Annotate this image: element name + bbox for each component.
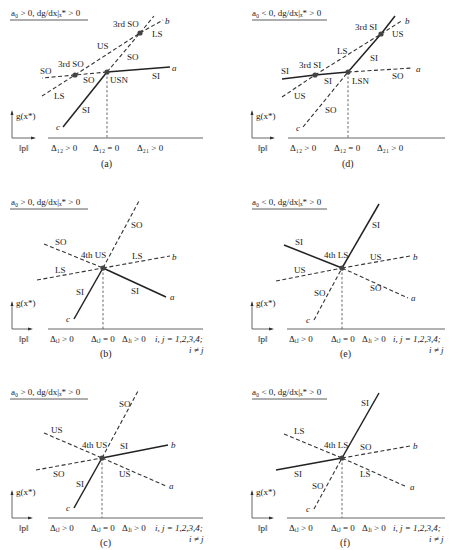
panel-d-condition: a₀ < 0, dg/dx|ₓ* > 0 [252,8,322,18]
y-axis-label: g(x*) [16,298,36,308]
label-left-so: SO [40,66,52,76]
y-axis-arrow-icon [11,301,14,306]
label-left-ls: LS [54,91,65,101]
node-4th-ls [339,455,344,460]
x-tick-left: Δ₁₂ > 0 [290,143,317,153]
branch-left-si [276,458,342,470]
x-tick-left: Δᵢⱼ > 0 [289,334,313,344]
index-note-neq: i ≠ j [189,534,204,544]
label-so-a: SO [370,283,382,293]
label-mid-so: SO [83,75,95,85]
label-left-si: SI [281,66,289,76]
label-si-a: SI [131,286,139,296]
y-axis-arrow-icon [11,490,14,495]
branch-end-b: b [405,16,410,26]
panel-c-condition: a₀ > 0, dg/dx|ₓ* > 0 [11,387,81,397]
branch-left-ls [37,268,103,280]
node-3rd-so-left [72,72,77,77]
x-tick-mid: Δ₁₂ = 0 [334,143,361,153]
label-us: US [97,41,109,51]
label-node-left: 3rd SI [299,60,321,70]
branch-a-ls [342,458,407,487]
label-so-c: SO [325,105,337,115]
x-tick-mid: Δᵢⱼ = 0 [331,334,355,344]
branch-end-a: a [416,64,421,74]
label-upper-so: SO [127,52,139,62]
node-lsn [345,69,350,74]
x-axis-label: ‖p‖ [258,334,268,344]
x-tick-right: Δⱼᵢ > 0 [362,334,386,344]
label-si-left: SI [294,469,302,479]
label-si-left: SI [295,237,303,247]
x-tick-right: Δⱼᵢ > 0 [362,523,386,533]
label-si-c: SI [76,479,84,489]
index-note-neq: i ≠ j [429,534,444,544]
label-node-upper: 3rd SI [355,22,377,32]
x-tick-right: Δⱼᵢ > 0 [122,523,146,533]
x-tick-left: Δ₁₂ > 0 [51,143,78,153]
x-tick-left: Δᵢⱼ > 0 [289,523,313,533]
node-3rd-si-left [312,72,317,77]
branch-end-b: b [171,440,176,450]
label-so-c: SO [312,481,324,491]
x-axis-arrow-icon [28,517,33,520]
branch-a-stable [107,67,170,72]
label-us-a: US [119,469,131,479]
x-tick-mid: Δᵢⱼ = 0 [331,523,355,533]
branch-end-a: a [170,292,175,302]
branch-end-c: c [306,504,310,514]
x-tick-mid: Δ₁₂ = 0 [93,143,120,153]
label-upper-ls: LS [152,29,163,39]
x-axis-arrow-icon [31,137,36,140]
node-3rd-so-upper [137,30,142,35]
index-note: i, j = 1,2,3,4; [155,523,203,533]
y-axis-label: g(x*) [256,487,276,497]
branch-a-us [102,458,166,486]
panel-f: a₀ < 0, dg/dx|ₓ* > 0 4th LS SI LS SI SO … [251,387,446,549]
x-axis-label: ‖p‖ [19,334,29,344]
index-note-neq: i ≠ j [429,345,444,355]
branch-end-b: b [413,441,418,451]
x-tick-right: Δ₂₁ > 0 [137,143,164,153]
panel-caption: (a) [101,158,112,170]
x-tick-left: Δᵢⱼ > 0 [50,334,74,344]
label-node: 4th LS [324,440,348,450]
y-axis-arrow-icon [251,490,254,495]
branch-end-b: b [172,252,177,262]
label-so-left: SO [55,237,67,247]
x-axis-label: ‖p‖ [258,143,268,153]
node-4th-ls [339,265,344,270]
label-us-left: US [51,425,63,435]
panel-caption: (c) [100,537,111,549]
label-us-right: US [370,252,382,262]
y-axis-label: g(x*) [16,487,36,497]
x-tick-right: Δ₂₁ > 0 [377,143,404,153]
branch-end-c: c [66,503,70,513]
label-so-top: SO [119,399,131,409]
label-ls-left: LS [294,426,305,436]
branch-left-us [276,268,342,281]
index-note: i, j = 1,2,3,4; [393,334,441,344]
x-axis-arrow-icon [28,328,33,331]
y-axis-label: g(x*) [256,298,276,308]
panel-a-condition: a₀ > 0, dg/dx|ₓ* > 0 [11,8,81,18]
branch-end-a: a [172,63,177,73]
panel-e: a₀ < 0, dg/dx|ₓ* > 0 4th LS SI SI US US … [251,197,446,360]
branch-b-so [342,446,410,458]
label-node-main: USN [110,75,129,85]
branch-end-c: c [296,123,300,133]
bifurcation-diagram-figure: a₀ > 0, dg/dx|ₓ* > 0 3rd SO LS US SO 3rd… [0,0,455,550]
branch-end-a: a [410,482,415,492]
branch-end-b: b [165,16,170,26]
label-us-left: US [294,265,306,275]
branch-end-a: a [411,293,416,303]
panel-b: a₀ > 0, dg/dx|ₓ* > 0 4th US SO SO LS LS … [10,197,204,360]
x-axis-label: ‖p‖ [19,143,29,153]
y-axis-arrow-icon [11,110,14,115]
label-node: 4th US [82,440,107,450]
index-note: i, j = 1,2,3,4; [393,523,441,533]
y-axis-arrow-icon [251,110,254,115]
label-si-c: SI [76,287,84,297]
label-node-main: LSN [352,76,370,86]
label-so-left: SO [53,469,65,479]
